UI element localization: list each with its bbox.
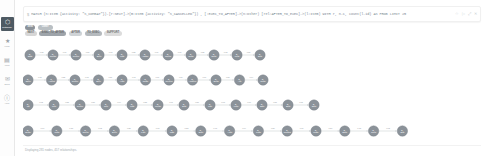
graph-relationship[interactable]: 0.89 [62, 127, 80, 132]
graph-node[interactable]: S_Scan [196, 126, 206, 136]
favorite-star-icon[interactable]: ☆ [455, 12, 459, 16]
graph-relationship[interactable]: 0.87 [81, 51, 94, 56]
graph-node[interactable]: S_Queue [80, 126, 90, 136]
graph-node[interactable]: S_End [255, 50, 265, 60]
run-query-icon[interactable]: ▷ [462, 12, 465, 16]
graph-node[interactable]: S_Close [186, 50, 196, 60]
legend-pill-next[interactable]: NEXT [25, 31, 37, 36]
graph-relationship[interactable]: 0.92 [219, 51, 232, 56]
graph-relationship[interactable]: 0.89 [242, 51, 255, 56]
graph-relationship[interactable]: 0.85 [59, 101, 75, 106]
graph-relationship[interactable]: 0.98 [35, 51, 48, 56]
sidebar-item-database[interactable]: ⬡Database [1, 17, 14, 31]
graph-relationship[interactable]: 0.90 [198, 76, 211, 81]
expand-icon[interactable]: ⤢ [468, 12, 471, 16]
graph-relationship[interactable]: 0.90 [173, 51, 186, 56]
graph-relationship[interactable]: 0.94 [111, 101, 127, 106]
graph-node[interactable]: S_Split [179, 100, 189, 110]
graph-node[interactable]: S_Approve [187, 75, 197, 85]
graph-relationship[interactable]: 0.95 [350, 127, 368, 132]
legend-pill-after[interactable]: AFTER [69, 31, 83, 36]
graph-node[interactable]: S_Check [163, 50, 173, 60]
graph-node[interactable]: S_Store [340, 126, 350, 136]
graph-relationship[interactable]: 0.88 [127, 51, 140, 56]
graph-relationship[interactable]: 0.90 [241, 101, 257, 106]
graph-node[interactable]: S_Accept [46, 75, 56, 85]
graph-node[interactable]: S_Notify [311, 126, 321, 136]
graph-relationship[interactable]: 0.85 [120, 127, 138, 132]
graph-relationship[interactable]: 0.85 [196, 51, 209, 56]
graph-svg[interactable]: 0.980.910.870.930.880.960.900.850.920.89… [23, 39, 481, 145]
graph-node[interactable]: S_Begin [23, 126, 33, 136]
graph-relationship[interactable]: 0.86 [104, 76, 117, 81]
graph-node[interactable]: S_Ack [234, 75, 244, 85]
graph-relationship[interactable]: 0.88 [137, 101, 153, 106]
graph-node[interactable]: S_Route [140, 75, 150, 85]
legend-pill-item[interactable]: Item [25, 25, 35, 30]
graph-relationship[interactable]: 0.91 [127, 76, 140, 81]
graph-relationship[interactable]: 0.91 [163, 101, 179, 106]
graph-relationship[interactable]: 0.92 [91, 127, 109, 132]
graph-node[interactable]: S_Queue [71, 50, 81, 60]
graph-node[interactable]: S_Open [23, 75, 33, 85]
graph-relationship[interactable]: 0.92 [33, 101, 49, 106]
graph-node[interactable]: S_Create [48, 50, 58, 60]
sidebar-item-favorites[interactable]: ★Favs [1, 36, 14, 50]
graph-relationship[interactable]: 0.94 [245, 76, 258, 81]
graph-relationship[interactable]: 0.86 [321, 127, 339, 132]
graph-relationship[interactable]: 0.86 [189, 101, 205, 106]
graph-node[interactable]: S_Join [205, 100, 215, 110]
legend-pill-other[interactable]: Other [38, 25, 53, 30]
graph-node[interactable]: S_Exec [94, 50, 104, 60]
legend-pill-to-exec[interactable]: TO_EXEC [85, 31, 102, 36]
graph-relationship[interactable]: 0.91 [58, 51, 71, 56]
graph-relationship[interactable]: 0.87 [264, 127, 282, 132]
legend-pill-support[interactable]: SUPPORT [104, 31, 121, 36]
graph-node[interactable]: S_Final [232, 50, 242, 60]
graph-node[interactable]: S_Done [209, 50, 219, 60]
graph-node[interactable]: S_Hold [117, 75, 127, 85]
sidebar-item-project-files[interactable]: ▤Files [1, 55, 14, 69]
graph-node[interactable]: S_End [397, 126, 407, 136]
graph-node[interactable]: S_Start [25, 50, 35, 60]
graph-relationship[interactable]: 0.88 [177, 127, 195, 132]
graph-node[interactable]: S_Clear [368, 126, 378, 136]
graph-relationship[interactable]: 0.96 [150, 51, 163, 56]
graph-relationship[interactable]: 0.88 [57, 76, 70, 81]
graph-node[interactable]: S_Wait [117, 50, 127, 60]
graph-relationship[interactable]: 0.87 [221, 76, 234, 81]
graph-node[interactable]: S_Commit [282, 126, 292, 136]
graph-node[interactable]: S_Verify [231, 100, 241, 110]
graph-relationship[interactable]: 0.93 [104, 51, 117, 56]
graph-node[interactable]: S_Init [23, 100, 33, 110]
graph-node[interactable]: S_Close [258, 75, 268, 85]
graph-node[interactable]: S_Wait [127, 100, 137, 110]
close-icon[interactable]: ✕ [474, 12, 477, 16]
graph-relationship[interactable]: 0.95 [33, 76, 46, 81]
graph-relationship[interactable]: 0.90 [292, 127, 310, 132]
graph-relationship[interactable]: 0.87 [267, 101, 283, 106]
cypher-query-text[interactable]: MATCH (n:Item {activity: "S_COMBAT"})-[r… [31, 12, 452, 17]
graph-relationship[interactable]: 0.84 [174, 76, 187, 81]
graph-relationship[interactable]: 0.89 [85, 101, 101, 106]
graph-node[interactable]: S_Exec [93, 75, 103, 85]
graph-node[interactable]: S_Run [101, 100, 111, 110]
graph-relationship[interactable]: 0.93 [80, 76, 93, 81]
graph-node[interactable]: S_Task [167, 126, 177, 136]
graph-node[interactable]: S_Stop [309, 100, 319, 110]
cypher-editor-bar[interactable]: $ MATCH (n:Item {activity: "S_COMBAT"})-… [23, 6, 481, 22]
sidebar-item-about[interactable]: ⓘHelp [1, 93, 14, 107]
graph-relationship[interactable]: 0.93 [148, 127, 166, 132]
graph-node[interactable]: S_Queue [70, 75, 80, 85]
graph-relationship[interactable]: 0.97 [151, 76, 164, 81]
graph-node[interactable]: S_Merge [153, 100, 163, 110]
graph-node[interactable]: S_Queue [75, 100, 85, 110]
graph-node[interactable]: S_Send [211, 75, 221, 85]
graph-node[interactable]: S_Exec [109, 126, 119, 136]
graph-node[interactable]: S_Assign [140, 50, 150, 60]
graph-node[interactable]: S_Pick [49, 100, 59, 110]
graph-node[interactable]: S_Emit [283, 100, 293, 110]
graph-relationship[interactable]: 0.96 [33, 127, 51, 132]
graph-node[interactable]: S_Audit [224, 126, 234, 136]
graph-node[interactable]: S_Review [164, 75, 174, 85]
